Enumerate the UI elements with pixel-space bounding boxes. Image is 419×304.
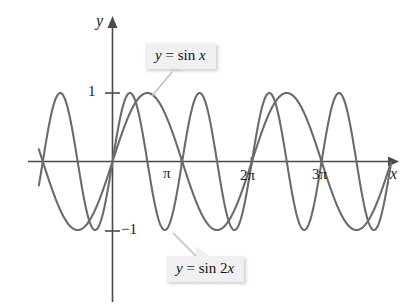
callout-sin-2x-equals: = sin 2: [183, 260, 228, 276]
callout-sin-x: y = sin x: [145, 43, 216, 69]
sine-graph-figure: y x 1 −1 π 2π 3π y = sin x y = sin 2x: [0, 0, 419, 304]
x-tick-label-three-pi: 3π: [312, 166, 327, 183]
callout-sin-2x: y = sin 2x: [166, 256, 244, 282]
callout-sin-x-equals: = sin: [162, 47, 199, 63]
callout-sin-x-variable: x: [199, 47, 206, 63]
x-axis-label: x: [390, 165, 397, 183]
callout-sin-2x-prefix: y: [176, 260, 183, 276]
y-tick-label-negative-one: −1: [121, 221, 137, 238]
x-axis: [28, 157, 399, 167]
callout-sin-2x-variable: x: [227, 260, 234, 276]
x-tick-label-pi: π: [163, 165, 171, 182]
callout-sin-x-prefix: y: [155, 47, 162, 63]
x-tick-label-two-pi: 2π: [240, 167, 255, 184]
y-tick-label-one: 1: [88, 83, 96, 100]
y-axis-label: y: [96, 12, 103, 30]
